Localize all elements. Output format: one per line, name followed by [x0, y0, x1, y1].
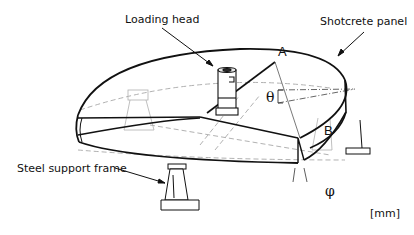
steel-support-frame-icon [161, 164, 199, 210]
steel-support-frame-right-icon [346, 120, 370, 154]
diagram-drawing [0, 0, 414, 235]
steel-support-frame-label: Steel support frame [17, 163, 127, 174]
crack-line-center [200, 117, 298, 138]
phi-line-right [304, 168, 307, 182]
theta-label: θ [266, 90, 274, 104]
crack-line-a [207, 62, 275, 113]
unit-label: [mm] [370, 208, 400, 219]
point-a-label: A [278, 45, 287, 58]
panel-left-edge [76, 115, 79, 142]
shotcrete-panel-test-diagram: Loading head Shotcrete panel Steel suppo… [0, 0, 414, 235]
loading-head-label: Loading head [125, 14, 199, 25]
crack-line-left [78, 117, 200, 118]
crack-line-diag [78, 118, 200, 135]
loading-head-icon [216, 68, 238, 116]
panel-top-rim [78, 49, 345, 115]
phi-line-left [293, 168, 295, 182]
point-b-label: B [324, 124, 333, 137]
theta-bracket-icon [278, 90, 283, 103]
line-a-b [275, 62, 300, 138]
phi-label: φ [325, 184, 335, 198]
shotcrete-panel-label: Shotcrete panel [320, 16, 407, 27]
hidden-lines [78, 82, 345, 160]
